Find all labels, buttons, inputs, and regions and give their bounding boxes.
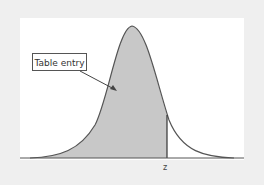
table-entry-label: Table entry <box>32 53 87 71</box>
normal-curve-diagram <box>0 0 264 185</box>
z-axis-label: z <box>163 163 167 172</box>
annotation-arrow <box>80 71 114 89</box>
